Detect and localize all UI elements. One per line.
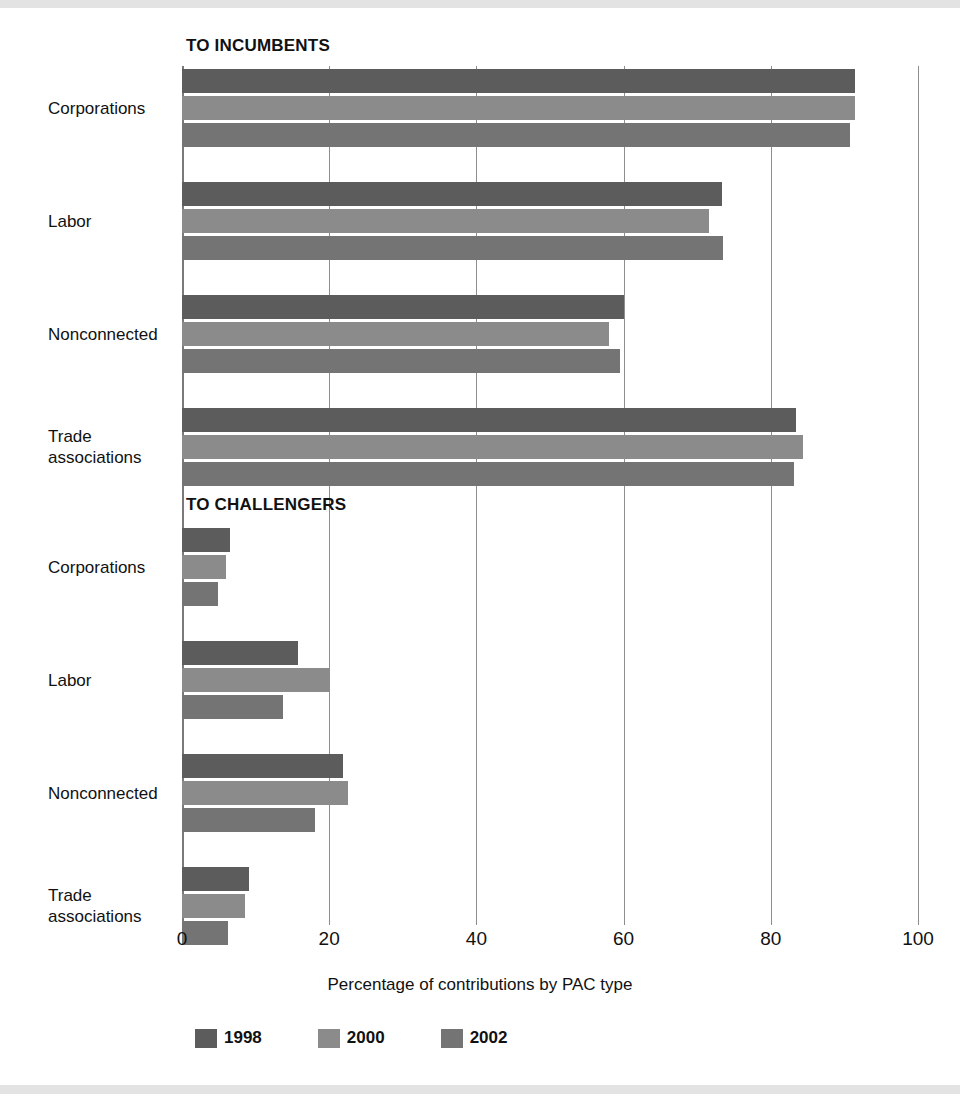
chart-legend: 199820002002 [195,1028,563,1048]
bar [182,754,343,778]
chart-page: TO INCUMBENTSCorporationsLaborNonconnect… [0,0,960,1102]
legend-item: 2000 [318,1028,385,1048]
bar [182,408,796,432]
bar [182,921,228,945]
legend-item: 1998 [195,1028,262,1048]
bar [182,123,850,147]
bar [182,349,620,373]
bar [182,668,330,692]
legend-swatch-icon [441,1029,463,1048]
legend-item: 2002 [441,1028,508,1048]
x-tick-label: 80 [760,928,781,950]
category-label: Corporations [48,557,178,578]
grouped-bar-chart: TO INCUMBENTSCorporationsLaborNonconnect… [0,0,960,1102]
panel-title: TO INCUMBENTS [186,36,330,56]
x-tick-label: 40 [466,928,487,950]
bar [182,322,609,346]
x-tick-label: 100 [902,928,934,950]
legend-label: 1998 [224,1028,262,1048]
bar [182,295,624,319]
bar [182,867,249,891]
category-label: Corporations [48,98,178,119]
bar [182,236,723,260]
bar [182,528,230,552]
bar [182,695,283,719]
legend-swatch-icon [318,1029,340,1048]
x-axis-title: Percentage of contributions by PAC type [0,975,960,995]
category-label: Labor [48,670,178,691]
bar [182,781,348,805]
bar [182,69,855,93]
bar [182,96,855,120]
x-tick-label: 60 [613,928,634,950]
category-label: Labor [48,211,178,232]
bar [182,582,218,606]
bar [182,182,722,206]
bar [182,808,315,832]
legend-swatch-icon [195,1029,217,1048]
bar [182,435,803,459]
x-tick-label: 0 [177,928,188,950]
category-label: Nonconnected [48,783,178,804]
bar [182,462,794,486]
bar [182,641,298,665]
x-tick-label: 20 [319,928,340,950]
category-label: Nonconnected [48,324,178,345]
gridline-100 [918,66,919,925]
gridline-80 [771,66,772,925]
bar [182,209,709,233]
legend-label: 2000 [347,1028,385,1048]
category-label: Trade associations [48,885,178,927]
legend-label: 2002 [470,1028,508,1048]
bar [182,894,245,918]
category-label: Trade associations [48,426,178,468]
bar [182,555,226,579]
panel-title: TO CHALLENGERS [186,495,346,515]
